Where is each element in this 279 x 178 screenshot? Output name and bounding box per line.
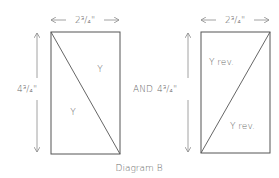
diagram-caption: Diagram B [115, 163, 162, 173]
left-panel: 2³/₄" 4³/₄" Y Y [17, 15, 120, 154]
right-width-dimension: 2³/₄" [201, 15, 269, 25]
right-height-label: 4³/₄" [157, 84, 177, 94]
right-upper-label: Y rev. [209, 57, 234, 67]
left-width-label: 2³/₄" [75, 15, 95, 25]
left-height-label: 4³/₄" [17, 84, 37, 94]
connector-label: AND [133, 84, 153, 94]
left-lower-label: Y [70, 107, 76, 117]
left-diagonal [51, 32, 120, 154]
left-width-dimension: 2³/₄" [51, 15, 119, 25]
right-width-label: 2³/₄" [225, 15, 245, 25]
right-diagonal [201, 32, 270, 153]
left-upper-label: Y [97, 64, 103, 74]
right-lower-label: Y rev. [230, 121, 255, 131]
left-height-dimension: 4³/₄" [17, 33, 37, 152]
right-panel: 2³/₄" 4³/₄" Y rev. Y rev. [157, 15, 270, 153]
diagram-b: 2³/₄" 4³/₄" Y Y AND 2³/₄" 4³/₄" Y rev. Y… [0, 0, 279, 178]
right-height-dimension: 4³/₄" [157, 33, 188, 152]
